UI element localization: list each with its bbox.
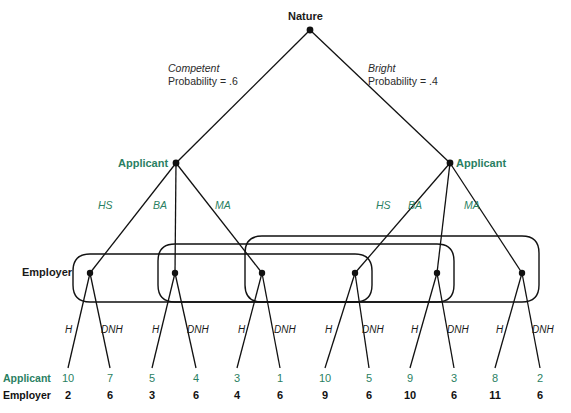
payoff-employer-6: 6: [277, 389, 283, 401]
node-employer-e5: [434, 270, 440, 276]
payoff-employer-5: 4: [234, 389, 240, 401]
payoff-applicant-7: 10: [319, 372, 331, 384]
info-set-hs: [73, 254, 372, 302]
employer-node-label: Employer: [22, 266, 72, 278]
payoff-applicant-12: 2: [537, 372, 543, 384]
tree-nodes: [87, 27, 525, 277]
node-applicant-competent: [173, 160, 180, 167]
payoff-applicant-10: 3: [451, 372, 457, 384]
payoff-applicant-11: 8: [492, 372, 498, 384]
action-label-e5-h: H: [411, 324, 418, 335]
edge-e6-dnh: [522, 273, 540, 368]
nature-node-label: Nature: [288, 10, 323, 22]
signal-label-hs-bright: HS: [376, 199, 391, 211]
payoff-employer-1: 2: [65, 389, 71, 401]
chance-edges: [176, 30, 450, 163]
signal-label-hs-competent: HS: [98, 199, 113, 211]
payoff-applicant-1: 10: [62, 372, 74, 384]
chance-branch-competent: Competent Probability = .6: [168, 62, 238, 88]
tree-graphics: [0, 0, 571, 413]
edge-competent-hs: [90, 163, 176, 273]
node-applicant-bright: [447, 160, 454, 167]
payoff-employer-7: 9: [322, 389, 328, 401]
edge-competent-ma: [176, 163, 262, 273]
action-label-e6-h: H: [496, 324, 503, 335]
node-employer-e3: [259, 270, 265, 276]
signal-edges-bright: [355, 163, 522, 273]
applicant-node-label-bright: Applicant: [456, 157, 506, 169]
node-employer-e1: [87, 270, 93, 276]
chance-probability-competent: Probability = .6: [168, 75, 238, 88]
node-employer-e4: [352, 270, 358, 276]
payoff-employer-11: 11: [489, 389, 501, 401]
payoff-applicant-8: 5: [366, 372, 372, 384]
payoff-applicant-6: 1: [277, 372, 283, 384]
edge-bright-ma: [450, 163, 522, 273]
edge-bright-ba: [437, 163, 450, 273]
edge-e3-h: [237, 273, 262, 368]
applicant-node-label-competent: Applicant: [118, 157, 168, 169]
info-set-ba: [158, 244, 454, 302]
action-label-e6-dnh: DNH: [532, 324, 554, 335]
action-label-e2-h: H: [152, 324, 159, 335]
edge-e5-h: [410, 273, 437, 368]
node-employer-e2: [172, 270, 178, 276]
chance-branch-bright: Bright Probability = .4: [368, 62, 438, 88]
chance-type-competent: Competent: [168, 62, 238, 75]
edge-e3-dnh: [262, 273, 280, 368]
action-label-e3-dnh: DNH: [274, 324, 296, 335]
signal-label-ma-bright: MA: [464, 199, 480, 211]
signal-label-ba-bright: BA: [408, 199, 422, 211]
game-tree-diagram: Nature Competent Probability = .6 Bright…: [0, 0, 571, 413]
signal-label-ma-competent: MA: [215, 199, 231, 211]
edge-e6-h: [495, 273, 522, 368]
edge-e1-h: [68, 273, 90, 368]
payoff-row-label-applicant: Applicant: [3, 372, 51, 384]
node-employer-e6: [519, 270, 525, 276]
edge-nature-competent: [176, 30, 310, 163]
edge-competent-ba: [175, 163, 176, 273]
edge-e5-dnh: [437, 273, 454, 368]
payoff-employer-3: 3: [149, 389, 155, 401]
payoff-applicant-2: 7: [107, 372, 113, 384]
edge-nature-bright: [310, 30, 450, 163]
action-edges: [68, 273, 540, 368]
edge-e2-h: [152, 273, 175, 368]
edge-e4-h: [325, 273, 355, 368]
information-sets: [73, 236, 539, 302]
payoff-row-label-employer: Employer: [3, 389, 51, 401]
action-label-e1-dnh: DNH: [101, 324, 123, 335]
payoff-employer-8: 6: [366, 389, 372, 401]
action-label-e4-dnh: DNH: [362, 324, 384, 335]
edge-bright-hs: [355, 163, 450, 273]
payoff-employer-9: 10: [404, 389, 416, 401]
payoff-applicant-4: 4: [193, 372, 199, 384]
payoff-applicant-3: 5: [149, 372, 155, 384]
chance-probability-bright: Probability = .4: [368, 75, 438, 88]
chance-type-bright: Bright: [368, 62, 438, 75]
info-set-ma: [245, 236, 539, 302]
signal-label-ba-competent: BA: [153, 199, 167, 211]
action-label-e1-h: H: [65, 324, 72, 335]
payoff-applicant-5: 3: [234, 372, 240, 384]
payoff-employer-4: 6: [193, 389, 199, 401]
payoff-employer-10: 6: [451, 389, 457, 401]
edge-e1-dnh: [90, 273, 110, 368]
edge-e2-dnh: [175, 273, 196, 368]
action-label-e2-dnh: DNH: [187, 324, 209, 335]
payoff-employer-12: 6: [537, 389, 543, 401]
edge-e4-dnh: [355, 273, 369, 368]
payoff-employer-2: 6: [107, 389, 113, 401]
action-label-e5-dnh: DNH: [447, 324, 469, 335]
action-label-e3-h: H: [238, 324, 245, 335]
payoff-applicant-9: 9: [407, 372, 413, 384]
signal-edges-competent: [90, 163, 262, 273]
action-label-e4-h: H: [325, 324, 332, 335]
node-nature: [307, 27, 314, 34]
